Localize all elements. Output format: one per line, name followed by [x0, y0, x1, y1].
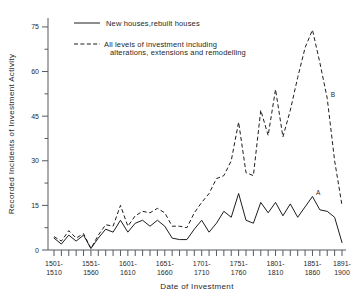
- x-tick-label-start: 1501-: [45, 260, 64, 267]
- x-tick-label-start: 1751-: [230, 260, 249, 267]
- chart-plot-area: 01530456075 1501-15101551-15601601-16101…: [0, 0, 358, 300]
- x-tick-label-end: 1610: [120, 269, 136, 276]
- y-tick-label: 60: [31, 68, 39, 75]
- x-axis-ticks: [54, 250, 342, 256]
- x-tick-label-end: 1560: [83, 269, 99, 276]
- legend-label-new-rebuilt-houses: New houses,rebuilt houses: [106, 19, 200, 28]
- annotation-label-b: B: [331, 91, 335, 98]
- investment-activity-chart: 01530456075 1501-15101551-15601601-16101…: [0, 0, 358, 300]
- x-tick-label-start: 1851-: [304, 260, 323, 267]
- y-axis-ticks: [42, 27, 48, 250]
- x-tick-label-end: 1510: [46, 269, 62, 276]
- x-tick-label-start: 1701-: [193, 260, 212, 267]
- x-tick-label-end: 1900: [334, 269, 350, 276]
- x-tick-label-end: 1710: [194, 269, 210, 276]
- y-axis-tick-labels: 01530456075: [31, 23, 39, 253]
- x-tick-label-end: 1860: [305, 269, 321, 276]
- legend-label-all-investment-line2: alterations, extensions and remodelling: [110, 48, 246, 57]
- chart-legend: New houses,rebuilt houses All levels of …: [74, 19, 246, 57]
- x-tick-label-start: 1651-: [156, 260, 175, 267]
- x-tick-label-start: 1801-: [267, 260, 286, 267]
- x-tick-label-end: 1760: [231, 269, 247, 276]
- x-tick-label-end: 1660: [157, 269, 173, 276]
- y-tick-label: 30: [31, 157, 39, 164]
- y-axis-title: Recorded Incidents of Investment Activit…: [7, 54, 16, 215]
- y-tick-label: 15: [31, 202, 39, 209]
- x-tick-label-start: 1551-: [82, 260, 101, 267]
- y-tick-label: 75: [31, 23, 39, 30]
- x-tick-label-start: 1891-: [333, 260, 352, 267]
- x-tick-label-start: 1601-: [119, 260, 138, 267]
- y-tick-label: 0: [35, 247, 39, 254]
- y-tick-label: 45: [31, 113, 39, 120]
- x-tick-label-end: 1810: [268, 269, 284, 276]
- x-axis-title: Date of Investment: [160, 282, 234, 291]
- x-axis-tick-labels: 1501-15101551-15601601-16101651-16601701…: [45, 260, 352, 276]
- series-new-rebuilt-houses-line: [54, 193, 342, 248]
- annotation-label-a: A: [316, 189, 321, 196]
